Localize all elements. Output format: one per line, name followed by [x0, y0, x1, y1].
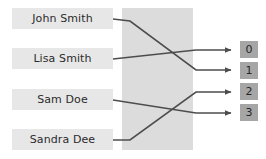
bucket-box-2[interactable]: 2: [239, 82, 259, 101]
edge-sam-doe: [113, 100, 231, 113]
key-box-lisa-smith[interactable]: Lisa Smith: [12, 48, 113, 69]
bucket-box-3[interactable]: 3: [239, 103, 259, 122]
key-label: Sandra Dee: [30, 133, 95, 146]
key-box-sandra-dee[interactable]: Sandra Dee: [12, 129, 113, 150]
key-box-john-smith[interactable]: John Smith: [12, 8, 113, 29]
key-label: Sam Doe: [37, 93, 88, 106]
key-label: Lisa Smith: [33, 52, 91, 65]
bucket-box-1[interactable]: 1: [239, 61, 259, 80]
bucket-box-0[interactable]: 0: [239, 40, 259, 59]
key-box-sam-doe[interactable]: Sam Doe: [12, 89, 113, 110]
bucket-label: 2: [246, 85, 253, 98]
bucket-label: 0: [246, 43, 253, 56]
bucket-label: 1: [246, 64, 253, 77]
key-label: John Smith: [32, 12, 92, 25]
edge-sandra-dee: [113, 92, 231, 140]
hash-diagram-canvas: John Smith Lisa Smith Sam Doe Sandra Dee…: [0, 0, 266, 159]
edge-john-smith: [113, 19, 231, 70]
bucket-label: 3: [246, 106, 253, 119]
